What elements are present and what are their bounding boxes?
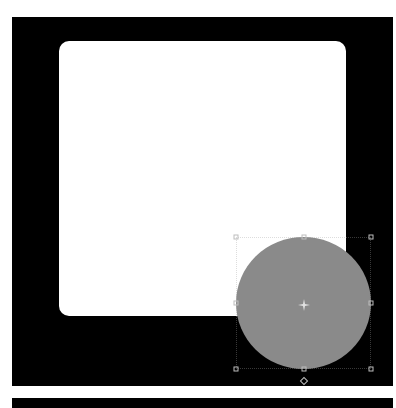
next-canvas-strip [12,398,393,408]
resize-handle-middle-right[interactable] [369,301,374,306]
resize-handle-top-right[interactable] [369,235,374,240]
selected-ellipse-group[interactable] [236,237,371,369]
drawing-canvas[interactable] [12,17,393,386]
resize-handle-top-center[interactable] [301,235,306,240]
pivot-icon[interactable] [298,297,310,309]
resize-handle-bottom-left[interactable] [234,367,239,372]
resize-handle-bottom-center[interactable] [301,367,306,372]
rotate-handle[interactable] [299,377,307,385]
resize-handle-middle-left[interactable] [234,301,239,306]
resize-handle-bottom-right[interactable] [369,367,374,372]
resize-handle-top-left[interactable] [234,235,239,240]
